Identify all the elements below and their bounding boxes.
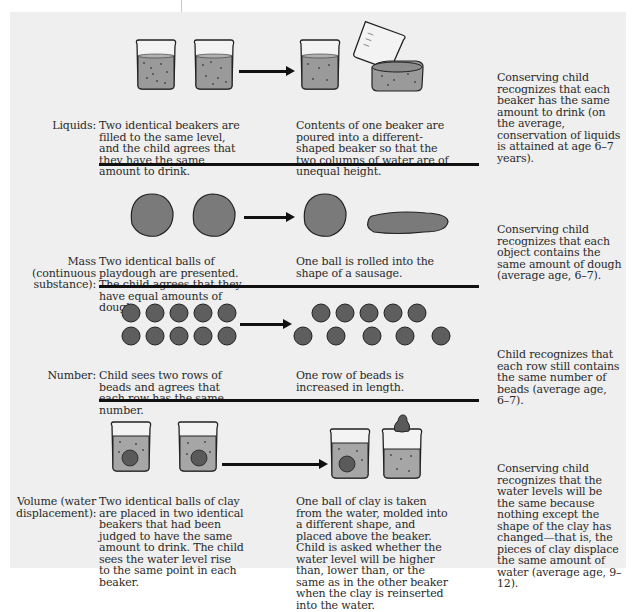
initial-description: Two identical balls of clay are placed i… [99, 496, 244, 588]
section-divider [99, 163, 479, 166]
conservation-description: Child recognizes that each row still con… [497, 349, 622, 407]
beaker-with-clay-icon [108, 420, 154, 472]
bead-rows-icon [120, 302, 250, 348]
dough-ball-icon [191, 192, 237, 238]
arrow-right-icon [240, 323, 284, 326]
arrow-right-icon [239, 70, 287, 73]
row-label: Liquids: [16, 120, 96, 132]
row-label: Volume (water displacement): [16, 496, 96, 519]
bead-rows-icon [293, 302, 453, 348]
section-divider [99, 285, 479, 288]
initial-description: Child sees two rows of beads and agrees … [99, 370, 239, 416]
beaker-with-clay-icon [327, 427, 373, 479]
conservation-description: Conserving child recognizes that each ob… [497, 224, 622, 282]
beaker-icon [133, 38, 179, 90]
transformation-description: One ball is rolled into the shape of a s… [296, 256, 436, 279]
pouring-beaker-icon [350, 24, 425, 94]
dough-ball-icon [302, 192, 348, 238]
row-label: Mass (continuous substance): [16, 256, 96, 291]
row-label: Number: [16, 370, 96, 382]
top-divider-line [181, 0, 182, 12]
dough-sausage-icon [366, 210, 450, 236]
beaker-with-clay-icon [175, 420, 221, 472]
beaker-icon [191, 38, 237, 90]
conservation-description: Conserving child recognizes that each be… [497, 72, 622, 164]
beaker-clay-above-icon [379, 413, 425, 479]
initial-description: Two identical beakers are filled to the … [99, 120, 244, 178]
conservation-tasks-figure: Liquids: Two identical beakers are fille… [10, 12, 626, 568]
beaker-icon [297, 38, 343, 90]
arrow-right-icon [244, 216, 287, 219]
conservation-description: Conserving child recognizes that the wat… [497, 463, 622, 590]
section-divider [99, 399, 479, 402]
transformation-description: One ball of clay is taken from the water… [296, 496, 451, 611]
arrow-right-icon [222, 463, 320, 466]
dough-ball-icon [129, 192, 175, 238]
transformation-description: One row of beads is increased in length. [296, 370, 436, 393]
transformation-description: Contents of one beaker are poured into a… [296, 120, 456, 178]
